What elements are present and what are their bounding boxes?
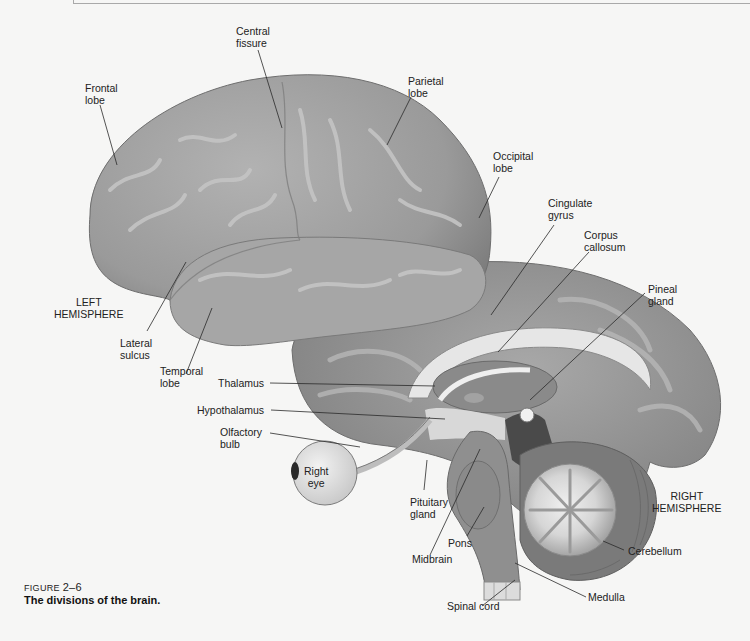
label-temporal-lobe: Temporal lobe <box>160 365 203 389</box>
label-right-eye: Right eye <box>304 465 329 489</box>
label-corpus-callosum: Corpus callosum <box>584 229 625 253</box>
label-parietal-lobe: Parietal lobe <box>408 75 444 99</box>
label-pons: Pons <box>448 537 472 549</box>
cerebellum-shape <box>520 442 657 581</box>
label-lateral-sulcus: Lateral sulcus <box>120 337 152 361</box>
label-central-fissure: Central fissure <box>236 25 270 49</box>
figure-prefix: FIGURE <box>24 583 60 593</box>
label-pituitary-gland: Pituitary gland <box>410 496 448 520</box>
label-hypothalamus: Hypothalamus <box>197 404 264 416</box>
label-pineal-gland: Pineal gland <box>648 283 677 307</box>
label-olfactory-bulb: Olfactory bulb <box>220 426 262 450</box>
label-midbrain: Midbrain <box>412 553 452 565</box>
label-occipital-lobe: Occipital lobe <box>493 150 533 174</box>
label-left-hemisphere: LEFT HEMISPHERE <box>54 296 123 320</box>
label-spinal-cord: Spinal cord <box>447 600 500 612</box>
figure-number-value: 2–6 <box>63 581 82 593</box>
label-frontal-lobe: Frontal lobe <box>85 82 118 106</box>
figure-caption: FIGURE 2–6 The divisions of the brain. <box>24 581 160 606</box>
figure-title: The divisions of the brain. <box>24 594 160 606</box>
figure-number: FIGURE 2–6 <box>24 581 160 593</box>
label-thalamus: Thalamus <box>218 377 264 389</box>
left-hemisphere-shape <box>89 75 491 346</box>
label-medulla: Medulla <box>588 591 625 603</box>
label-cingulate-gyrus: Cingulate gyrus <box>548 197 592 221</box>
label-right-hemisphere: RIGHT HEMISPHERE <box>652 490 721 514</box>
label-cerebellum: Cerebellum <box>628 545 682 557</box>
